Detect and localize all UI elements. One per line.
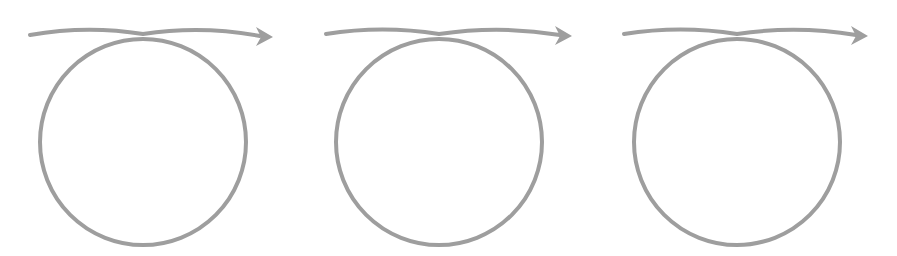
diagram-canvas: Three loop-and-arrow figures bbox=[0, 0, 897, 256]
loop-circle bbox=[634, 39, 840, 245]
loop-arrow-figure bbox=[326, 26, 572, 245]
curved-arrow bbox=[30, 30, 260, 36]
loop-arrow-figure bbox=[624, 26, 868, 245]
loop-circle bbox=[40, 39, 246, 245]
loop-arrow-figure bbox=[30, 27, 273, 245]
loop-circle bbox=[336, 39, 542, 245]
curved-arrow bbox=[326, 30, 560, 36]
figures-layer bbox=[30, 26, 868, 245]
curved-arrow bbox=[624, 30, 856, 36]
loop-arrow-diagram bbox=[0, 0, 897, 256]
